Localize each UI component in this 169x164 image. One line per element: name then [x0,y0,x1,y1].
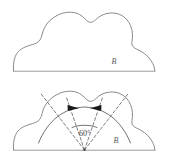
upper-region-label: B [112,57,117,66]
vertex-point-icon [83,149,85,151]
lower-mound-outline [13,91,154,150]
figure-canvas: B 60° B [0,0,169,164]
dashed-ray-inner-right [85,96,104,150]
lower-region-label: B [114,136,119,145]
angle-label: 60° [79,129,90,138]
arrowhead-right-icon [68,105,80,111]
dashed-ray-outer-left [40,93,85,151]
upper-panel: B [13,12,155,71]
arrowhead-left-icon [90,105,102,111]
upper-mound-outline [13,12,154,71]
dashed-ray-inner-left [66,96,85,150]
geometry-figure: B 60° B [0,0,169,164]
lower-panel: 60° B [13,91,155,151]
